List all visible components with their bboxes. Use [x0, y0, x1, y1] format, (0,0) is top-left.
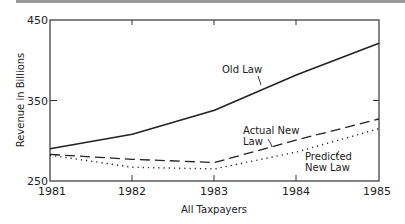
xtick-1983: 1983	[200, 185, 228, 198]
label-actual-line2: Law	[243, 136, 263, 147]
x-axis-title: All Taxpayers	[181, 204, 247, 215]
xtick-1985: 1985	[363, 185, 391, 198]
label-actual-line1: Actual New	[243, 125, 299, 136]
series-old-law	[50, 43, 379, 149]
ytick-450: 450	[27, 14, 48, 27]
label-predicted-line1: Predicted	[305, 151, 352, 162]
ytick-350: 350	[27, 95, 48, 108]
label-predicted-line2: New Law	[305, 162, 350, 173]
xtick-1982: 1982	[118, 185, 146, 198]
pointer-old-law	[258, 76, 261, 85]
label-old-law: Old Law	[222, 64, 262, 75]
xtick-1984: 1984	[282, 185, 310, 198]
y-axis-title: Revenue in Billions	[15, 53, 26, 148]
revenue-chart: 450 350 250 1981 1982 1983 1984 1985 All…	[0, 0, 405, 224]
pointer-actual	[268, 139, 272, 147]
xtick-1981: 1981	[38, 185, 66, 198]
